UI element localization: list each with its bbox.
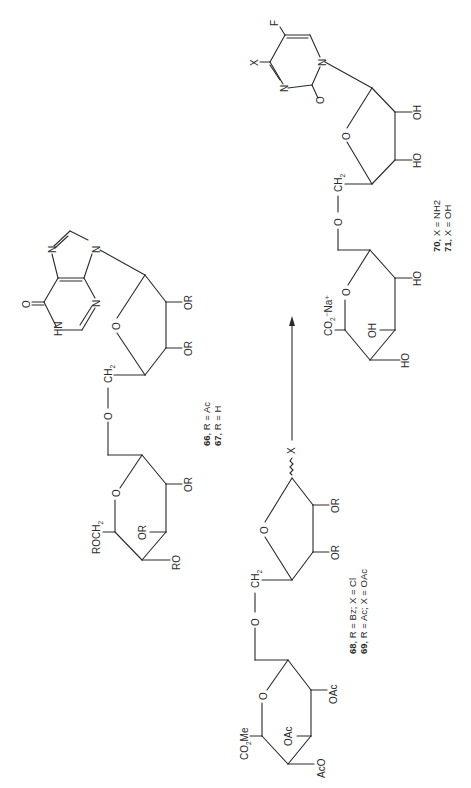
oac-label-b: OAc — [283, 727, 294, 746]
ring-o-label: O — [259, 526, 270, 534]
linker-o-label: O — [250, 618, 261, 626]
aco-label: AcO — [316, 758, 327, 778]
oac-label-a: OAc — [328, 685, 339, 704]
pyrimidine-ring — [260, 27, 372, 98]
compound-label-71: 71, X = OH — [442, 205, 453, 252]
oh-2prime-label: OH — [412, 105, 423, 120]
compound-label-69: 69, R = Ac; X = OAc — [358, 569, 369, 654]
anomeric-x-label: X — [286, 447, 297, 454]
or-3prime-label: OR — [183, 341, 194, 356]
roch2-label: ROCH2 — [91, 521, 104, 554]
compound-label-70: 70, X = NH2 — [431, 200, 442, 252]
or-3prime-label: OR — [330, 545, 341, 560]
ring-o-label: O — [111, 322, 122, 330]
fluoro-label: F — [269, 20, 280, 26]
ring-o-label: O — [341, 132, 352, 140]
pyranose-o-label: O — [111, 489, 122, 497]
carboxylate-label: CO2⁻Na⁺ — [323, 295, 336, 336]
oh-label-b: OH — [367, 323, 378, 338]
pyranose-ring-68 — [250, 660, 327, 764]
or-label-b: OR — [137, 525, 148, 540]
furanose-ring-66 — [114, 275, 182, 375]
reaction-arrow — [289, 316, 295, 440]
compound-label-66: 66, R = Ac — [201, 402, 212, 446]
linker-o-label: O — [333, 218, 344, 226]
furanose-ring-70 — [345, 88, 412, 184]
x-substituent-label: X — [249, 59, 260, 66]
pyranose-ring-70 — [335, 250, 412, 360]
or-2prime-label: OR — [330, 498, 341, 513]
linker-o-label: O — [103, 412, 114, 420]
ro-label: RO — [171, 555, 182, 570]
co2me-label: CO2Me — [239, 727, 252, 760]
carbonyl-o-label: O — [21, 300, 32, 308]
compound-66-67: N N N O HN O OR OR CH2 O — [21, 231, 223, 570]
oh-label-c: HO — [400, 353, 411, 368]
furanose-ring-68 — [262, 478, 329, 580]
n9-label: N — [91, 246, 102, 253]
n1-label: N — [317, 59, 328, 66]
ch2-label: CH2 — [250, 570, 263, 588]
nh-label: HN — [53, 322, 64, 336]
compound-70-71: F X N N O O OH HO CH2 O — [249, 20, 453, 368]
wavy-bond — [290, 458, 293, 475]
n3-label: N — [91, 300, 102, 307]
oh-3prime-label: HO — [412, 153, 423, 168]
pyranose-o-label: O — [341, 288, 352, 296]
pyranose-ring-66 — [103, 455, 182, 560]
oh-label-a: HO — [412, 271, 423, 286]
ch2-label: CH2 — [103, 365, 116, 383]
arrowhead-icon — [289, 316, 295, 326]
pyranose-o-label: O — [258, 692, 269, 700]
or-label-a: OR — [183, 477, 194, 492]
carbonyl-o-label: O — [315, 96, 326, 104]
ch2-label: CH2 — [333, 174, 346, 192]
n7-label: N — [47, 246, 58, 253]
compound-label-67: 67, R = H — [212, 405, 223, 446]
compound-68-69: X O OR OR CH2 O — [239, 447, 369, 778]
n3-label: N — [279, 85, 290, 92]
reaction-scheme: F X N N O O OH HO CH2 O — [0, 0, 471, 788]
or-2prime-label: OR — [183, 295, 194, 310]
compound-label-68: 68, R = Bz; X = Cl — [347, 578, 358, 654]
